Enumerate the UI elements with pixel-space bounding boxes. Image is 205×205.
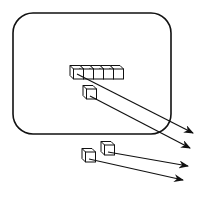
diagram-canvas xyxy=(0,0,205,205)
arrow xyxy=(77,74,193,133)
arrow xyxy=(108,152,188,166)
cubes xyxy=(82,86,115,163)
cube-row-item xyxy=(70,66,84,80)
diagram-svg xyxy=(0,0,205,205)
cube-inside-single xyxy=(83,86,97,100)
arrow xyxy=(90,96,190,148)
cube-row xyxy=(70,66,124,80)
